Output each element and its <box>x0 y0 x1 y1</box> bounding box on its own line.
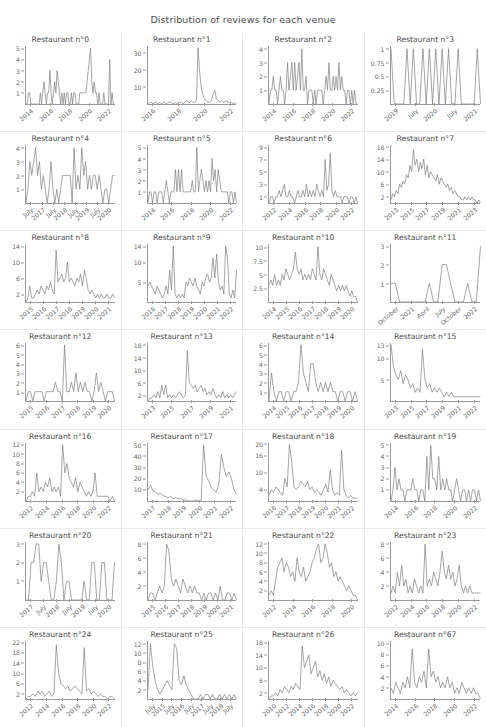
x-tick-mark <box>289 202 290 205</box>
x-axis-ticks: 2016201720182019202020212022 <box>148 302 237 330</box>
x-tick-label: 2018 <box>422 504 439 519</box>
y-axis-ticks: 2468 <box>365 542 389 600</box>
y-tick-label: 18 <box>134 341 142 348</box>
x-tick-label: 2014 <box>383 702 400 717</box>
x-tick-label: 2013 <box>383 404 400 419</box>
subplot-title: Restaurant n°3 <box>365 35 486 44</box>
y-tick-label: 1 <box>16 186 20 193</box>
x-tick-mark <box>165 599 166 602</box>
x-tick-mark <box>312 400 313 403</box>
y-axis-ticks: 1020304050 <box>122 443 146 501</box>
y-tick-label: 3 <box>259 59 263 66</box>
x-tick-mark <box>30 599 31 602</box>
x-tick-label: 2017 <box>414 206 431 221</box>
x-tick-mark <box>108 698 109 701</box>
subplot-title: Restaurant n°19 <box>365 432 486 441</box>
y-axis-spine <box>390 343 391 401</box>
x-tick-label: 2018 <box>155 504 172 519</box>
x-tick-label: 2020 <box>81 702 98 717</box>
x-axis-ticks: 20142016201820202022 <box>391 699 481 727</box>
y-tick-label: 3 <box>259 370 263 377</box>
x-tick-label: 2016 <box>49 702 66 717</box>
y-tick-label: 4 <box>138 677 142 684</box>
y-tick-label: 3 <box>381 464 385 471</box>
x-tick-mark <box>474 698 475 701</box>
x-tick-label: 2016 <box>403 504 420 519</box>
x-tick-label: 2014 <box>140 206 157 221</box>
x-tick-mark <box>312 301 313 304</box>
x-tick-mark <box>214 500 215 503</box>
subplot-panel: Restaurant n°232468201220142016201820202… <box>365 529 486 628</box>
x-tick-mark <box>273 103 274 106</box>
subplot-panel: Restaurant n°155101320132015201720192021… <box>365 330 486 429</box>
x-tick-mark <box>191 698 192 701</box>
plot-area <box>269 542 358 600</box>
x-axis-ticks: 201520162017201820192020 <box>26 401 115 429</box>
y-tick-label: 2 <box>381 582 385 589</box>
series-line <box>26 443 115 501</box>
series-line <box>148 542 237 600</box>
x-tick-label: July <box>445 107 458 120</box>
y-axis-ticks: 51013 <box>365 343 389 401</box>
x-tick-mark <box>458 202 459 205</box>
x-tick-mark <box>325 400 326 403</box>
x-tick-mark <box>351 698 352 701</box>
x-axis-ticks: 201720182019202020212022 <box>148 501 237 529</box>
subplot-title: Restaurant n°4 <box>0 134 121 143</box>
subplot-panel: Restaurant n°141234562014201520162017201… <box>243 330 365 429</box>
x-tick-label: 2018 <box>44 603 61 618</box>
x-tick-label: 2014 <box>277 206 294 221</box>
x-tick-label: 2021 <box>446 404 463 419</box>
x-tick-label: 2021 <box>399 305 416 320</box>
x-tick-label: 2021 <box>96 305 113 320</box>
x-axis-ticks: 2014201520162017201820192020 <box>269 302 358 330</box>
x-tick-mark <box>320 202 321 205</box>
x-tick-mark <box>93 500 94 503</box>
x-tick-label: 2022 <box>462 404 479 419</box>
subplot-title: Restaurant n°6 <box>243 134 364 143</box>
y-tick-label: 5 <box>381 441 385 448</box>
x-tick-mark <box>351 103 352 106</box>
plot-area <box>26 443 115 501</box>
x-tick-label: 2020 <box>192 107 209 122</box>
x-tick-mark <box>191 599 192 602</box>
x-tick-label: 2018 <box>430 603 447 618</box>
y-tick-label: 5 <box>138 279 142 286</box>
y-axis-ticks: 13579 <box>243 145 267 203</box>
x-tick-mark <box>325 698 326 701</box>
x-tick-mark <box>210 202 211 205</box>
y-axis-ticks: 102030 <box>122 46 146 104</box>
x-tick-label: 2022 <box>462 702 479 717</box>
y-axis-ticks: 12345 <box>122 145 146 203</box>
series-line <box>391 145 481 203</box>
series-line <box>391 46 481 104</box>
subplot-title: Restaurant n°0 <box>0 35 121 44</box>
y-tick-label: 12 <box>12 441 20 448</box>
x-tick-label: 2022 <box>218 206 235 221</box>
x-tick-label: 2016 <box>300 603 317 618</box>
x-axis-ticks: 20142016201820202022 <box>26 104 115 132</box>
y-axis-ticks: 123 <box>0 542 24 600</box>
x-tick-label: 2017 <box>49 404 66 419</box>
y-tick-label: 6 <box>259 342 263 349</box>
x-axis-ticks: October2021AprilJulyOctober2022 <box>391 302 481 330</box>
x-tick-mark <box>293 599 294 602</box>
subplot-panel: Restaurant n°2123420142016201820202022 <box>243 33 365 132</box>
y-axis-ticks: 246810 <box>365 641 389 699</box>
y-tick-label: 2 <box>381 261 385 268</box>
y-tick-label: 22 <box>12 639 20 646</box>
subplot-grid: Restaurant n°01234520142016201820202022R… <box>0 33 486 727</box>
x-tick-mark <box>434 698 435 701</box>
x-tick-mark <box>204 599 205 602</box>
x-axis-ticks: 201220142016201820202022 <box>391 600 481 628</box>
series-line <box>26 145 115 203</box>
series-line <box>26 641 115 699</box>
y-tick-label: 2 <box>138 582 142 589</box>
y-tick-label: 13 <box>377 342 385 349</box>
x-tick-label: 2018 <box>308 206 325 221</box>
y-tick-label: 18 <box>377 143 385 150</box>
x-axis-ticks: 2015201620172018201920202021 <box>148 600 237 628</box>
y-tick-label: 0.5 <box>375 73 385 80</box>
x-tick-label: 2014 <box>34 504 51 519</box>
subplot-title: Restaurant n°20 <box>0 531 121 540</box>
